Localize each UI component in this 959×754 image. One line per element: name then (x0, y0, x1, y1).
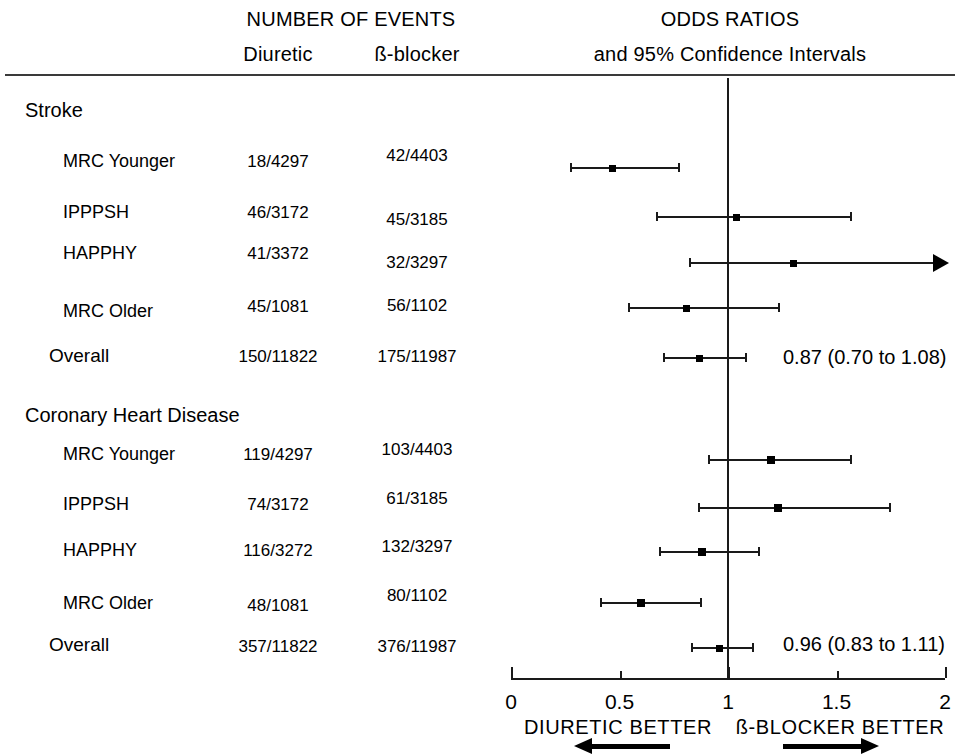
x-axis-tick-2 (945, 667, 947, 678)
row-label-stroke-mrc-younger: MRC Younger (63, 151, 175, 172)
x-axis-tick-0.5 (620, 671, 622, 678)
summary-estimate-chd: 0.96 (0.83 to 1.11) (783, 633, 945, 656)
x-axis-tick-label-0: 0 (481, 690, 541, 714)
cell-bblocker-chd-happhy: 132/3297 (327, 537, 507, 557)
ci-point-chd-overall (716, 645, 723, 652)
ci-line-chd-mrc-younger (708, 459, 849, 461)
summary-estimate-stroke: 0.87 (0.70 to 1.08) (783, 346, 946, 369)
ci-cap-high-chd-happhy (758, 547, 760, 556)
x-axis-tick-label-0.5: 0.5 (590, 690, 650, 714)
right-arrow-icon (861, 738, 879, 754)
row-label-chd-overall: Overall (49, 634, 109, 656)
row-label-stroke-ipppsh: IPPPSH (63, 202, 129, 223)
ci-line-stroke-overall (663, 357, 745, 359)
ci-point-chd-happhy (698, 548, 706, 556)
header-odds-ratios: ODDS RATIOS (530, 8, 930, 31)
cell-bblocker-chd-mrc-younger: 103/4403 (327, 440, 507, 460)
ci-arrow-high-stroke-happhy (933, 254, 949, 272)
row-label-chd-mrc-younger: MRC Younger (63, 444, 175, 465)
column-header-bblocker: ß-blocker (317, 43, 517, 66)
header-number-of-events: NUMBER OF EVENTS (151, 8, 551, 31)
ci-cap-high-stroke-ipppsh (850, 212, 852, 221)
ci-cap-low-stroke-overall (663, 353, 665, 362)
ci-point-stroke-overall (696, 355, 703, 362)
ci-line-chd-mrc-older (600, 602, 700, 604)
ci-cap-low-chd-happhy (659, 547, 661, 556)
ci-cap-high-chd-mrc-older (700, 598, 702, 607)
ci-cap-high-stroke-overall (745, 353, 747, 362)
cell-bblocker-stroke-mrc-younger: 42/4403 (327, 146, 507, 166)
header-confidence-intervals: and 95% Confidence Intervals (530, 43, 930, 66)
ci-cap-low-chd-mrc-older (600, 598, 602, 607)
x-axis-tick-1.5 (837, 671, 839, 678)
ci-line-stroke-ipppsh (656, 216, 849, 218)
ci-line-chd-ipppsh (698, 507, 889, 509)
ci-cap-high-stroke-mrc-older (778, 303, 780, 312)
ci-point-chd-mrc-younger (767, 456, 775, 464)
ci-line-stroke-happhy (689, 262, 933, 264)
x-axis-tick-label-1: 1 (698, 690, 758, 714)
footer-label-diuretic-better: DIURETIC BETTER (498, 716, 738, 739)
cell-bblocker-stroke-happhy: 32/3297 (327, 253, 507, 273)
ci-cap-low-stroke-mrc-younger (570, 163, 572, 172)
ci-point-chd-mrc-older (637, 599, 645, 607)
right-arrow-shaft (783, 744, 863, 749)
cell-bblocker-chd-ipppsh: 61/3185 (327, 489, 507, 509)
row-label-chd-happhy: HAPPHY (63, 540, 137, 561)
ci-line-chd-happhy (659, 551, 759, 553)
x-axis-tick-1 (728, 667, 730, 678)
cell-bblocker-stroke-ipppsh: 45/3185 (327, 210, 507, 230)
ci-point-stroke-mrc-younger (609, 165, 616, 172)
row-label-stroke-happhy: HAPPHY (63, 243, 137, 264)
ci-point-stroke-mrc-older (683, 305, 690, 312)
group-heading-coronary-heart-disease: Coronary Heart Disease (25, 404, 240, 427)
ci-cap-high-stroke-mrc-younger (678, 163, 680, 172)
ci-point-stroke-happhy (790, 260, 797, 267)
ci-cap-low-chd-overall (691, 643, 693, 652)
ci-cap-low-chd-mrc-younger (708, 455, 710, 464)
reference-line-or-1 (727, 78, 729, 678)
cell-bblocker-stroke-mrc-older: 56/1102 (327, 296, 507, 316)
ci-cap-high-chd-mrc-younger (850, 455, 852, 464)
cell-bblocker-chd-mrc-older: 80/1102 (327, 586, 507, 606)
ci-point-stroke-ipppsh (733, 214, 740, 221)
header-divider-rule (5, 74, 955, 76)
x-axis-tick-label-1.5: 1.5 (807, 690, 867, 714)
ci-line-stroke-mrc-older (628, 307, 778, 309)
ci-line-stroke-mrc-younger (570, 167, 679, 169)
left-arrow-shaft (590, 744, 670, 749)
x-axis-tick-0 (511, 667, 513, 678)
ci-point-chd-ipppsh (774, 504, 782, 512)
row-label-chd-ipppsh: IPPPSH (63, 494, 129, 515)
x-axis-tick-label-2: 2 (915, 690, 959, 714)
row-label-stroke-overall: Overall (49, 345, 109, 367)
ci-cap-low-stroke-mrc-older (628, 303, 630, 312)
ci-cap-low-chd-ipppsh (698, 503, 700, 512)
ci-cap-low-stroke-ipppsh (656, 212, 658, 221)
cell-bblocker-chd-overall: 376/11987 (327, 637, 507, 657)
ci-cap-low-stroke-happhy (689, 258, 691, 267)
footer-label-bblocker-better: ß-BLOCKER BETTER (720, 716, 959, 739)
ci-cap-high-chd-ipppsh (889, 503, 891, 512)
ci-cap-high-chd-overall (752, 643, 754, 652)
cell-bblocker-stroke-overall: 175/11987 (327, 347, 507, 367)
x-axis-line (511, 678, 945, 680)
forest-plot-figure: NUMBER OF EVENTS ODDS RATIOS Diuretic ß-… (0, 0, 959, 754)
row-label-chd-mrc-older: MRC Older (63, 593, 153, 614)
row-label-stroke-mrc-older: MRC Older (63, 301, 153, 322)
group-heading-stroke: Stroke (25, 99, 83, 122)
